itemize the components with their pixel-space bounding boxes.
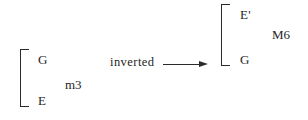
left-top-note: G [38, 53, 48, 66]
interval-inversion-figure: G E m3 inverted E' G M6 [0, 0, 308, 120]
right-top-note: E' [240, 8, 251, 21]
left-interval-label: m3 [65, 78, 82, 91]
right-interval-label: M6 [272, 28, 290, 41]
inverted-label: inverted [110, 56, 155, 69]
left-bottom-note: E [38, 94, 46, 107]
arrow-shaft [163, 64, 201, 66]
arrow-head [199, 61, 208, 67]
right-arrow-icon [163, 61, 208, 69]
right-bracket [221, 4, 230, 66]
right-bottom-note: G [240, 53, 250, 66]
left-bracket [20, 49, 29, 107]
